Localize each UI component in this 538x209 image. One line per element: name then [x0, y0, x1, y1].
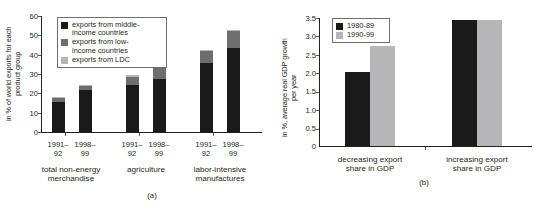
panel-b-ytickmark — [316, 18, 319, 19]
panel-b-ytickmark — [316, 55, 319, 56]
bar-agriculture-1998-99[interactable] — [153, 64, 166, 132]
figure-root: in % of world exports for each product g… — [0, 0, 538, 209]
bar-decreasing-1990-99[interactable] — [370, 46, 395, 146]
bar-segment-low-income — [153, 67, 166, 79]
bar-increasing-1990-99[interactable] — [477, 20, 502, 145]
bar-segment-low-income — [52, 98, 65, 102]
bar-segment-ldc — [126, 75, 139, 77]
panel-b-ytickmark — [316, 36, 319, 37]
panel-b-ytickmark — [316, 129, 319, 130]
bar-segment-middle-income — [200, 63, 213, 132]
panel-a-ytickmark — [38, 93, 41, 94]
panel-a-caption: (a) — [137, 191, 167, 200]
panel-a-ytickmark — [38, 132, 41, 133]
panel-a-ytick-50: 50 — [24, 31, 38, 40]
legend-swatch-low-income-icon — [61, 39, 68, 46]
group-label-labor-intensive: labor-intensive manufactures — [174, 165, 266, 184]
legend-label: exports from middle- income countries — [72, 21, 139, 38]
bar-total-nonenergy-1998-99[interactable] — [79, 85, 92, 132]
legend-label: exports from LDC — [72, 56, 130, 65]
legend-item-ldc[interactable]: exports from LDC — [61, 56, 162, 65]
panel-b-ytick-3.0: 3.0 — [300, 32, 316, 41]
legend-label: 1990-99 — [347, 31, 374, 40]
panel-b-xtickmark — [425, 147, 426, 150]
panel-b-y-axis — [319, 18, 320, 147]
panel-a-ytick-40: 40 — [24, 50, 38, 59]
panel-b-ytick-2.0: 2.0 — [300, 68, 316, 77]
panel-a-y-axis-label: in % of world exports for each product g… — [4, 18, 22, 130]
legend-label: exports from low- income countries — [72, 38, 129, 55]
bar-increasing-1980-89[interactable] — [452, 20, 477, 145]
panel-a-ytick-60: 60 — [24, 12, 38, 21]
bar-segment-low-income — [200, 51, 213, 63]
bar-segment-ldc — [79, 85, 92, 86]
panel-a-y-axis — [41, 16, 42, 133]
panel-b-ytick-0: 0 — [300, 142, 316, 151]
bar-segment-ldc — [200, 50, 213, 51]
panel-a-ytickmark — [38, 113, 41, 114]
panel-b-ytick-2.5: 2.5 — [300, 50, 316, 59]
panel-a-xtickmark — [139, 133, 140, 136]
panel-b-ytick-3.5: 3.5 — [300, 14, 316, 23]
panel-a-ytick-20: 20 — [24, 89, 38, 98]
panel-a-xtickmark — [65, 133, 66, 136]
legend-swatch-ldc-icon — [61, 57, 68, 64]
bar-labor-intensive-1991-92[interactable] — [200, 50, 213, 132]
legend-item-1990-99[interactable]: 1990-99 — [336, 31, 385, 40]
category-label-increasing: increasing export share in GDP — [428, 155, 526, 174]
legend-item-1980-89[interactable]: 1980-89 — [336, 22, 385, 31]
bar-decreasing-1980-89[interactable] — [345, 72, 370, 146]
panel-a-x-axis — [41, 132, 262, 133]
legend-swatch-middle-income-icon — [61, 22, 68, 29]
panel-a-ytick-0: 0 — [24, 127, 38, 136]
panel-b-ytickmark — [316, 110, 319, 111]
bar-segment-low-income — [79, 86, 92, 91]
xtick-label-agriculture-1998-99: 1998– 99 — [142, 141, 176, 158]
xtick-label-labor-intensive-1998-99: 1998– 99 — [216, 141, 250, 158]
chart-panel-b: in %, average real GDP growth per year 3… — [269, 0, 538, 209]
panel-a-ytickmark — [38, 55, 41, 56]
panel-a-xtickmark — [213, 133, 214, 136]
bar-segment-ldc — [52, 97, 65, 98]
bar-segment-middle-income — [126, 85, 139, 132]
bar-segment-middle-income — [52, 102, 65, 132]
bar-total-nonenergy-1991-92[interactable] — [52, 97, 65, 132]
panel-b-y-axis-label: in %, average real GDP growth per year — [280, 36, 299, 140]
bar-segment-low-income — [227, 31, 240, 48]
bar-segment-middle-income — [153, 79, 166, 132]
bar-segment-middle-income — [79, 90, 92, 132]
legend-swatch-1990-99-icon — [336, 32, 343, 39]
bar-labor-intensive-1998-99[interactable] — [227, 30, 240, 132]
panel-a-ytick-10: 10 — [24, 108, 38, 117]
bar-segment-ldc — [227, 30, 240, 32]
legend-label: 1980-89 — [347, 22, 374, 31]
panel-a-legend: exports from middle- income countries ex… — [57, 17, 167, 68]
panel-b-caption: (b) — [409, 178, 439, 187]
legend-swatch-1980-89-icon — [336, 23, 343, 30]
panel-b-ytick-1.5: 1.5 — [300, 87, 316, 96]
panel-b-legend: 1980-89 1990-99 — [332, 18, 390, 43]
panel-a-ytick-30: 30 — [24, 69, 38, 78]
panel-b-ytick-0.5: 0.5 — [300, 123, 316, 132]
legend-item-middle-income[interactable]: exports from middle- income countries — [61, 21, 162, 38]
panel-a-ytickmark — [38, 35, 41, 36]
bar-agriculture-1991-92[interactable] — [126, 75, 139, 132]
legend-item-low-income[interactable]: exports from low- income countries — [61, 38, 162, 55]
panel-a-ytickmark — [38, 16, 41, 17]
chart-panel-a: in % of world exports for each product g… — [0, 0, 269, 209]
bar-segment-low-income — [126, 77, 139, 85]
bar-segment-middle-income — [227, 48, 240, 132]
panel-b-ytick-1.0: 1.0 — [300, 105, 316, 114]
category-label-decreasing: decreasing export share in GDP — [321, 155, 419, 174]
xtick-label-total-nonenergy-1998-99: 1998– 99 — [68, 141, 102, 158]
panel-b-ytickmark — [316, 73, 319, 74]
panel-b-ytickmark — [316, 92, 319, 93]
panel-a-ytickmark — [38, 74, 41, 75]
